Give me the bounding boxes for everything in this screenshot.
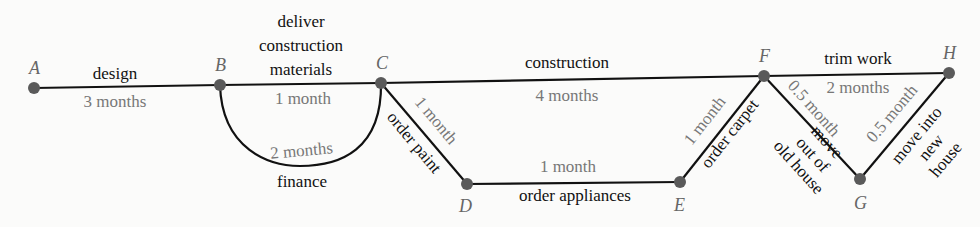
- task-construction: construction: [525, 53, 610, 72]
- edge-a-b: [34, 85, 220, 88]
- edge-b-c: [220, 83, 381, 85]
- diagram-canvas: A B C D E F G H design 3 months deliver …: [0, 0, 980, 227]
- duration-trim: 2 months: [827, 78, 890, 97]
- node-label-a: A: [28, 58, 41, 78]
- edge-f-h: [764, 73, 949, 76]
- duration-design: 3 months: [84, 92, 147, 111]
- duration-finance: 2 months: [269, 138, 333, 162]
- node-b: [214, 79, 226, 91]
- node-label-g: G: [854, 193, 867, 213]
- node-label-c: C: [376, 53, 389, 73]
- node-label-d: D: [458, 196, 472, 216]
- task-moveout-group: move out of old house: [770, 111, 856, 198]
- duration-construction: 4 months: [536, 86, 599, 105]
- node-label-f: F: [758, 46, 771, 66]
- node-a: [28, 82, 40, 94]
- task-deliver-line3: materials: [270, 60, 332, 79]
- duration-appliances: 1 month: [540, 157, 597, 176]
- edge-d-e: [467, 182, 680, 184]
- duration-deliver: 1 month: [275, 89, 332, 108]
- node-f: [758, 70, 770, 82]
- activity-network-diagram: A B C D E F G H design 3 months deliver …: [0, 0, 980, 227]
- edge-c-f: [381, 76, 764, 83]
- node-e: [674, 176, 686, 188]
- node-c: [375, 77, 387, 89]
- node-label-h: H: [942, 43, 957, 63]
- task-design: design: [93, 64, 138, 83]
- task-finance: finance: [277, 172, 327, 191]
- task-deliver-line2: construction: [259, 36, 344, 55]
- node-g: [854, 173, 866, 185]
- task-deliver-line1: deliver: [277, 12, 325, 31]
- task-trim: trim work: [824, 49, 892, 68]
- node-label-e: E: [673, 195, 685, 215]
- node-label-b: B: [215, 55, 226, 75]
- node-h: [943, 67, 955, 79]
- task-appliances: order appliances: [519, 186, 631, 205]
- node-d: [461, 178, 473, 190]
